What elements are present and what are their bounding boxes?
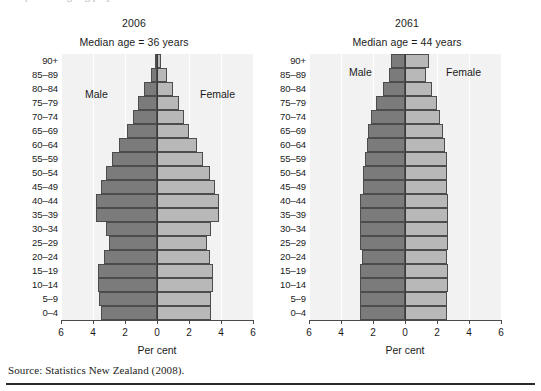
bar-female	[157, 180, 215, 194]
x-axis-tick-label: 6	[243, 327, 263, 338]
gridline	[501, 54, 502, 320]
bar-female	[157, 236, 207, 250]
x-axis-tick	[253, 320, 254, 324]
bar-male	[133, 110, 157, 124]
bar-male	[376, 96, 405, 110]
plot-area: MaleFemale	[309, 54, 501, 320]
bar-female	[157, 96, 179, 110]
bar-female	[157, 68, 167, 82]
x-axis-tick-label: 4	[331, 327, 351, 338]
age-group-label: 30–34	[254, 223, 306, 234]
bar-male	[362, 250, 405, 264]
bar-female	[157, 222, 211, 236]
bar-male	[360, 222, 405, 236]
bar-male	[99, 292, 157, 306]
bar-female	[157, 124, 189, 138]
bar-male	[101, 306, 157, 320]
x-axis-title: Per cent	[277, 344, 537, 356]
bar-female	[405, 222, 448, 236]
bar-male	[360, 306, 405, 320]
bar-male	[98, 278, 157, 292]
bar-male	[101, 180, 157, 194]
bar-male	[138, 96, 157, 110]
bar-female	[405, 250, 447, 264]
bar-male	[127, 124, 157, 138]
x-axis-tick	[341, 320, 342, 324]
age-group-label: 0–4	[6, 307, 58, 318]
age-group-label: 25–29	[6, 237, 58, 248]
age-group-label: 70–74	[6, 111, 58, 122]
bar-female	[405, 68, 426, 82]
x-axis-tick	[61, 320, 62, 324]
center-axis-line	[157, 54, 158, 320]
bar-male	[360, 292, 405, 306]
bar-male	[363, 166, 405, 180]
x-axis-tick	[373, 320, 374, 324]
age-group-label: 65–69	[254, 125, 306, 136]
age-group-label: 15–19	[254, 265, 306, 276]
bar-male	[112, 152, 157, 166]
x-axis-tick-label: 2	[115, 327, 135, 338]
bar-female	[157, 208, 219, 222]
bar-female	[405, 166, 447, 180]
x-axis-tick	[221, 320, 222, 324]
bar-female	[405, 194, 448, 208]
age-group-label: 15–19	[6, 265, 58, 276]
x-axis-tick	[189, 320, 190, 324]
age-group-label: 5–9	[6, 293, 58, 304]
x-axis-tick-label: 2	[363, 327, 383, 338]
bar-female	[405, 110, 440, 124]
x-axis-tick-label: 4	[211, 327, 231, 338]
x-axis-tick	[125, 320, 126, 324]
bar-male	[365, 152, 405, 166]
bar-female	[157, 292, 211, 306]
population-pyramid-2006: 2006 Median age = 36 years MaleFemale Pe…	[4, 8, 264, 353]
age-group-label: 40–44	[6, 195, 58, 206]
x-axis-tick	[437, 320, 438, 324]
bar-male	[109, 236, 157, 250]
age-group-label: 35–39	[6, 209, 58, 220]
chart-median-age-label: Median age = 36 years	[4, 36, 264, 48]
legend-male: Male	[349, 66, 372, 78]
bar-male	[367, 138, 405, 152]
age-group-label: 40–44	[254, 195, 306, 206]
legend-female: Female	[446, 66, 481, 78]
bar-male	[360, 194, 405, 208]
bar-female	[405, 96, 437, 110]
age-group-label: 65–69	[6, 125, 58, 136]
x-axis-tick	[309, 320, 310, 324]
bar-male	[389, 68, 405, 82]
age-group-label: 60–64	[254, 139, 306, 150]
bar-female	[405, 82, 432, 96]
age-group-label: 50–54	[6, 167, 58, 178]
bar-male	[360, 264, 405, 278]
x-axis-tick-label: 2	[179, 327, 199, 338]
bar-male	[383, 82, 405, 96]
bar-male	[360, 236, 405, 250]
age-group-label: 30–34	[6, 223, 58, 234]
x-axis-tick	[405, 320, 406, 324]
age-group-label: 90+	[6, 55, 58, 66]
bar-male	[360, 278, 405, 292]
age-group-label: 85–89	[254, 69, 306, 80]
bar-female	[157, 278, 213, 292]
bar-female	[405, 152, 447, 166]
bar-female	[405, 236, 448, 250]
bar-male	[98, 264, 157, 278]
bar-female	[405, 138, 445, 152]
age-group-label: 50–54	[254, 167, 306, 178]
bar-female	[157, 250, 210, 264]
bar-female	[157, 110, 184, 124]
bar-female	[157, 82, 173, 96]
bar-male	[104, 250, 157, 264]
bar-male	[96, 194, 157, 208]
legend-male: Male	[85, 88, 108, 100]
bar-male	[368, 124, 405, 138]
bar-male	[106, 222, 157, 236]
age-group-label: 20–24	[6, 251, 58, 262]
x-axis-tick-label: 0	[147, 327, 167, 338]
bar-male	[391, 54, 405, 68]
age-group-label: 80–84	[6, 83, 58, 94]
population-pyramid-2061: 2061 Median age = 44 years MaleFemale Pe…	[277, 8, 537, 353]
bar-female	[405, 180, 447, 194]
